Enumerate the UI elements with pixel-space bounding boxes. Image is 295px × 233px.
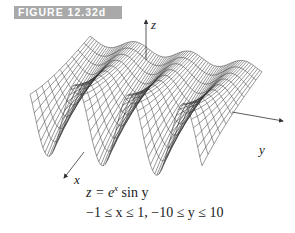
domain-range: −1 ≤ x ≤ 1, −10 ≤ y ≤ 10 (86, 205, 224, 221)
x-axis-label: x (74, 172, 80, 188)
equation: z = ex sin y (86, 183, 148, 201)
equation-rhs: sin y (118, 185, 148, 200)
z-axis-label: z (151, 17, 156, 33)
y-axis-label: y (259, 142, 265, 158)
equation-lhs: z = e (86, 185, 114, 200)
y-axis (232, 112, 283, 121)
